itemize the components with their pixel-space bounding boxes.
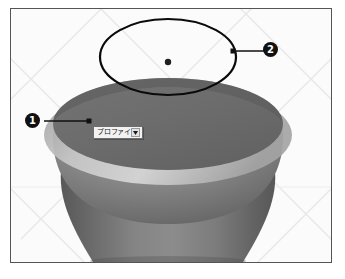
profile-dropdown[interactable]: プロファイ...	[93, 126, 143, 139]
callout-marker-2: 2	[263, 42, 278, 57]
sketch-center-point	[165, 59, 171, 65]
sketch-and-callout-layer[interactable]	[11, 9, 331, 262]
figure-container: プロファイ... 1 2	[0, 0, 345, 279]
sketch-ellipse	[100, 19, 236, 95]
callout-2-target-point	[231, 49, 236, 54]
profile-dropdown-label: プロファイ...	[97, 128, 131, 137]
callout-marker-1: 1	[25, 113, 40, 128]
cad-viewport[interactable]: プロファイ...	[11, 9, 331, 262]
figure-frame: プロファイ...	[10, 8, 332, 263]
callout-1-target-point	[87, 119, 92, 124]
chevron-down-icon[interactable]	[131, 128, 140, 137]
